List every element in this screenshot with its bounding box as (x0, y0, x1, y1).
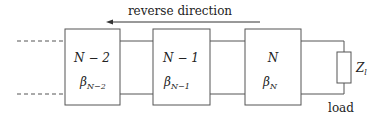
arrow-head-icon (106, 20, 113, 25)
load-wire-bottom (301, 83, 344, 94)
arrow-label: reverse direction (128, 4, 232, 18)
block-n (245, 29, 301, 105)
block-2-index: N − 1 (162, 51, 199, 65)
block-3-index: N (267, 51, 279, 65)
block-n-minus-2 (65, 29, 120, 105)
load-symbol: Zl (355, 61, 367, 77)
cascade-diagram: reverse direction N − 2 βN−2 N − 1 βN−1 … (0, 0, 383, 119)
load-label: load (328, 101, 354, 115)
block-n-minus-1 (153, 29, 210, 105)
load-impedance (337, 52, 351, 83)
block-1-index: N − 2 (73, 51, 110, 65)
load-wire-top (301, 41, 344, 52)
